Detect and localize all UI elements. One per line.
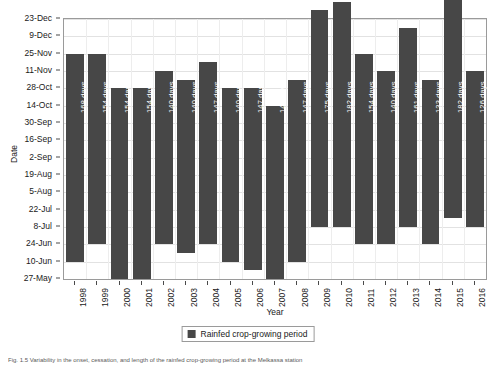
y-tick-label: 16-Sep — [25, 134, 52, 144]
x-tick-mark — [74, 281, 75, 285]
legend: Rainfed crop-growing period — [182, 326, 315, 342]
x-tick-label: 2003 — [189, 288, 199, 307]
gridline-vertical — [242, 19, 243, 279]
x-tick-label: 2002 — [166, 288, 176, 307]
y-tick-label: 10-Jun — [26, 256, 52, 266]
x-tick-label: 2015 — [455, 288, 465, 307]
x-tick-mark — [163, 281, 164, 285]
y-tick-mark — [56, 191, 60, 192]
gridline-vertical — [153, 19, 154, 279]
y-tick-mark — [56, 104, 60, 105]
figure: Date 27-May10-Jun24-Jun8-Jul22-Jul5-Aug1… — [0, 0, 496, 366]
x-tick-mark — [141, 281, 142, 285]
gridline-vertical — [264, 19, 265, 279]
x-tick-label: 2008 — [300, 288, 310, 307]
x-tick-label: 2006 — [255, 288, 265, 307]
y-tick-label: 14-Oct — [26, 100, 52, 110]
bar-2007[interactable] — [266, 106, 284, 279]
figure-caption: Fig. 1.5 Variability in the onset, cessa… — [8, 356, 478, 366]
y-tick-label: 30-Sep — [25, 117, 52, 127]
x-tick-label: 2007 — [277, 288, 287, 307]
y-tick-label: 5-Aug — [29, 186, 52, 196]
x-tick-mark — [452, 281, 453, 285]
y-tick-mark — [56, 18, 60, 19]
y-tick-label: 8-Jul — [34, 221, 52, 231]
gridline-vertical — [175, 19, 176, 279]
x-tick-mark — [341, 281, 342, 285]
x-tick-mark — [474, 281, 475, 285]
gridline-horizontal — [64, 71, 486, 72]
x-tick-mark — [429, 281, 430, 285]
legend-swatch-rainfed-crop-growing-period — [188, 330, 196, 338]
y-tick-label: 25-Nov — [25, 48, 52, 58]
gridline-horizontal — [64, 36, 486, 37]
y-tick-mark — [56, 260, 60, 261]
x-tick-mark — [274, 281, 275, 285]
x-tick-mark — [207, 281, 208, 285]
gridline-vertical — [286, 19, 287, 279]
y-tick-label: 28-Oct — [26, 82, 52, 92]
plot-area: 168 days154 days154 days154 days140 days… — [63, 18, 487, 280]
gridline-vertical — [419, 19, 420, 279]
x-tick-label: 2000 — [122, 288, 132, 307]
y-tick-mark — [56, 139, 60, 140]
bar-2005[interactable] — [222, 88, 240, 261]
y-tick-mark — [56, 52, 60, 53]
legend-label-rainfed-crop-growing-period: Rainfed crop-growing period — [201, 329, 308, 339]
gridline-vertical — [375, 19, 376, 279]
x-tick-label: 2010 — [344, 288, 354, 307]
gridline-vertical — [197, 19, 198, 279]
x-tick-label: 2004 — [211, 288, 221, 307]
y-tick-mark — [56, 278, 60, 279]
x-tick-label: 1998 — [78, 288, 88, 307]
bar-2009[interactable] — [311, 10, 329, 227]
bar-2001[interactable] — [133, 88, 151, 279]
y-tick-label: 24-Jun — [26, 238, 52, 248]
y-tick-label: 23-Dec — [25, 13, 52, 23]
x-tick-mark — [363, 281, 364, 285]
x-tick-mark — [318, 281, 319, 285]
x-tick-mark — [119, 281, 120, 285]
gridline-horizontal — [64, 19, 486, 20]
gridline-vertical — [86, 19, 87, 279]
x-tick-mark — [252, 281, 253, 285]
x-tick-mark — [407, 281, 408, 285]
gridline-vertical — [464, 19, 465, 279]
x-tick-label: 2013 — [411, 288, 421, 307]
x-tick-mark — [230, 281, 231, 285]
y-tick-mark — [56, 122, 60, 123]
bar-2010[interactable] — [333, 2, 351, 227]
y-tick-mark — [56, 35, 60, 36]
x-tick-label: 2016 — [477, 288, 487, 307]
gridline-vertical — [353, 19, 354, 279]
x-tick-mark — [385, 281, 386, 285]
x-tick-mark — [296, 281, 297, 285]
y-tick-mark — [56, 174, 60, 175]
y-tick-mark — [56, 226, 60, 227]
y-tick-mark — [56, 208, 60, 209]
x-axis-title: Year — [63, 307, 487, 317]
y-tick-label: 9-Dec — [29, 30, 52, 40]
y-tick-mark — [56, 70, 60, 71]
y-tick-label: 2-Sep — [29, 152, 52, 162]
gridline-vertical — [108, 19, 109, 279]
x-tick-mark — [185, 281, 186, 285]
y-tick-mark — [56, 87, 60, 88]
y-tick-label: 27-May — [24, 273, 52, 283]
gridline-vertical — [308, 19, 309, 279]
bar-2013[interactable] — [399, 28, 417, 227]
bar-2006[interactable] — [244, 88, 262, 270]
bar-value-label: 126 days — [478, 81, 487, 113]
x-tick-label: 2012 — [388, 288, 398, 307]
x-tick-label: 2005 — [233, 288, 243, 307]
y-tick-mark — [56, 243, 60, 244]
x-tick-label: 2009 — [322, 288, 332, 307]
gridline-vertical — [397, 19, 398, 279]
y-axis: 27-May10-Jun24-Jun8-Jul22-Jul5-Aug19-Aug… — [0, 18, 60, 280]
gridline-horizontal — [64, 54, 486, 55]
x-tick-label: 1999 — [100, 288, 110, 307]
bar-2000[interactable] — [111, 88, 129, 279]
x-tick-mark — [96, 281, 97, 285]
y-tick-label: 22-Jul — [29, 204, 52, 214]
y-tick-label: 11-Nov — [25, 65, 52, 75]
